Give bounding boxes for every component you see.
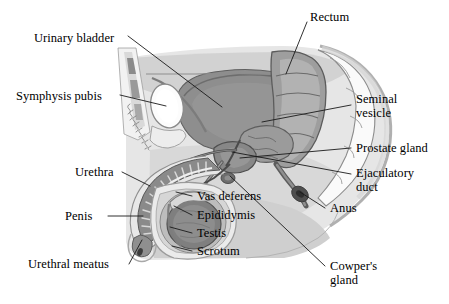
label-cowpers-gland: Cowper's gland (330, 259, 377, 287)
label-epididymis: Epididymis (197, 208, 255, 222)
label-seminal-vesicle: Seminal vesicle (356, 92, 397, 120)
label-symphysis-pubis: Symphysis pubis (16, 89, 102, 103)
label-anus: Anus (330, 201, 357, 215)
label-ejaculatory-duct: Ejaculatory duct (356, 166, 414, 194)
label-prostate-gland: Prostate gland (356, 141, 428, 155)
label-rectum: Rectum (310, 10, 349, 24)
label-urethral-meatus: Urethral meatus (28, 257, 109, 271)
label-urethra: Urethra (75, 165, 114, 179)
label-scrotum: Scrotum (197, 244, 240, 258)
anatomical-diagram: Urinary bladder Symphysis pubis Urethra … (0, 0, 449, 304)
label-urinary-bladder: Urinary bladder (34, 31, 114, 45)
label-vas-deferens: Vas deferens (197, 189, 261, 203)
label-testis: Testis (197, 226, 226, 240)
label-penis: Penis (65, 209, 92, 223)
